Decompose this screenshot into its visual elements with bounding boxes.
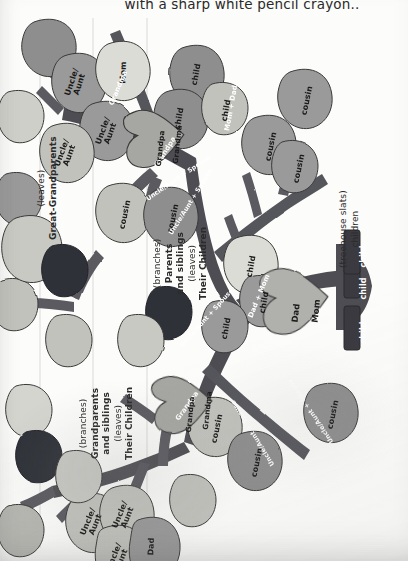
- section-sub: (leaves): [36, 136, 48, 240]
- section-label-parents: (branches) Parents and siblings (leaves)…: [152, 227, 210, 300]
- slat: [344, 306, 360, 350]
- section-sub2: (leaves): [113, 387, 125, 460]
- section-title3: Their Children: [124, 387, 136, 460]
- leaf: [0, 504, 44, 556]
- leaf: [6, 384, 52, 436]
- leaf: [118, 314, 164, 366]
- section-title2: and siblings: [101, 387, 113, 460]
- leaf: [202, 82, 248, 134]
- section-title: Great-Grandparents: [48, 136, 60, 240]
- section-sub: (branches): [152, 227, 164, 300]
- section-title: Grandparents: [90, 387, 102, 460]
- section-title: Parents: [164, 227, 176, 300]
- leaf: [96, 41, 150, 100]
- section-title: children: [350, 190, 362, 268]
- leaf: [46, 314, 92, 366]
- leaf: [304, 383, 358, 442]
- section-label-great-grandparents: (leaves) Great-Grandparents: [36, 136, 59, 240]
- leaf: [0, 278, 38, 330]
- section-label-grandparents: (branches) Grandparents and siblings (le…: [78, 387, 136, 460]
- leaf: [202, 300, 248, 352]
- leaf: [272, 140, 318, 192]
- leaf: [129, 517, 180, 561]
- leaf: [42, 244, 88, 296]
- section-sub: (branches): [78, 387, 90, 460]
- section-sub2: (leaves): [187, 227, 199, 300]
- section-title2: and siblings: [175, 227, 187, 300]
- family-tree-diagram: with a sharp white pencil crayon..: [0, 0, 408, 561]
- section-title3: Their Children: [198, 227, 210, 300]
- leaf: [16, 430, 62, 482]
- leaf: [96, 183, 150, 242]
- leaf: [0, 90, 44, 142]
- leaf: [278, 69, 332, 128]
- leaf: [228, 431, 282, 490]
- leaf: [170, 474, 216, 526]
- section-sub: (treehouse slats): [338, 190, 350, 268]
- section-label-treehouse: (treehouse slats) children: [338, 190, 361, 268]
